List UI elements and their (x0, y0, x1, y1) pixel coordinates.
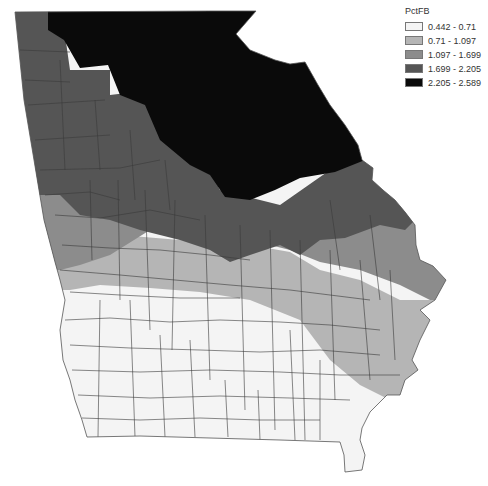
legend-item: 2.205 - 2.589 (405, 76, 481, 89)
legend-swatch (405, 64, 423, 73)
legend-item: 1.699 - 2.205 (405, 62, 481, 75)
legend-label: 0.71 - 1.097 (428, 36, 476, 46)
legend: PctFB 0.442 - 0.71 0.71 - 1.097 1.097 - … (405, 6, 481, 90)
legend-swatch (405, 50, 423, 59)
legend-item: 0.71 - 1.097 (405, 34, 481, 47)
legend-swatch (405, 36, 423, 45)
legend-item: 1.097 - 1.699 (405, 48, 481, 61)
legend-label: 1.097 - 1.699 (428, 50, 481, 60)
legend-label: 0.442 - 0.71 (428, 22, 476, 32)
legend-swatch (405, 22, 423, 31)
legend-label: 1.699 - 2.205 (428, 64, 481, 74)
legend-item: 0.442 - 0.71 (405, 20, 481, 33)
legend-label: 2.205 - 2.589 (428, 78, 481, 88)
legend-title: PctFB (405, 6, 481, 16)
legend-swatch (405, 78, 423, 87)
